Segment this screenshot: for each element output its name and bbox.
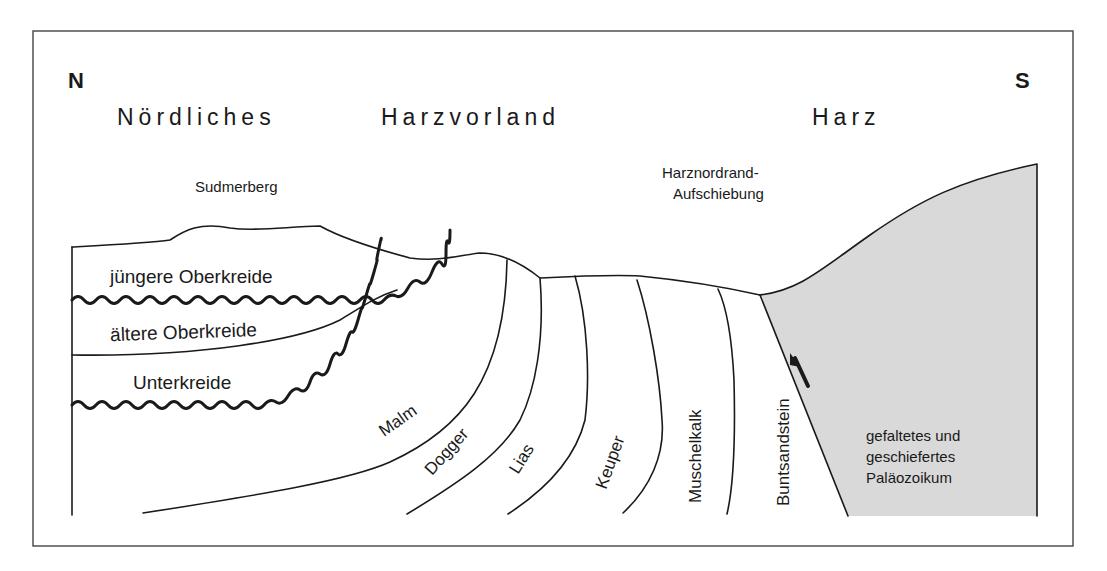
unit-label-unterkreide: Unterkreide (133, 372, 231, 393)
fault-label-line2: Aufschiebung (673, 185, 764, 202)
unit-label-lias: Lias (505, 441, 538, 478)
unit-label-buntsandstein: Buntsandstein (774, 398, 793, 506)
cross-section-figure: N S Nördliches Harzvorland Harz Sudmerbe… (0, 0, 1107, 571)
unit-label-juengere-oberkreide: jüngere Oberkreide (109, 266, 273, 287)
unit-label-malm: Malm (375, 401, 420, 440)
boundary-keuper-muschelkalk (623, 280, 662, 513)
unit-label-palaeozoikum-line1: gefaltetes und (866, 427, 960, 444)
unit-label-dogger: Dogger (421, 424, 473, 478)
south-label: S (1015, 68, 1030, 93)
unit-label-aeltere-oberkreide: ältere Oberkreide (110, 319, 257, 345)
boundary-muschelkalk-buntsandstein (718, 289, 734, 514)
boundary-lias-keuper (508, 276, 588, 514)
region-label-noerdliches: Nördliches (117, 104, 276, 130)
unit-label-palaeozoikum-line3: Paläozoikum (866, 469, 952, 486)
unit-label-muschelkalk: Muschelkalk (686, 409, 705, 503)
fault-label-line1: Harznordrand- (662, 164, 759, 181)
unit-label-keuper: Keuper (592, 433, 629, 491)
sudmerberg-label: Sudmerberg (195, 178, 278, 195)
unit-label-palaeozoikum-line2: geschiefertes (866, 448, 955, 465)
north-label: N (68, 68, 84, 93)
boundary-dogger-lias (407, 278, 541, 514)
region-label-harz: Harz (812, 104, 881, 130)
region-label-harzvorland: Harzvorland (381, 104, 560, 130)
